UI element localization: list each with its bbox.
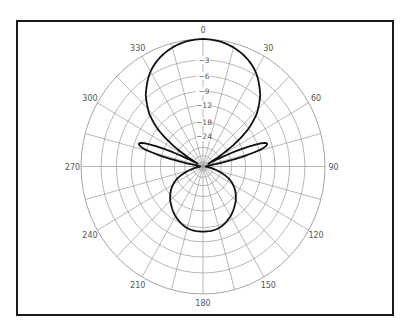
angle-label: 300 <box>82 94 97 103</box>
angle-label: 180 <box>195 299 210 308</box>
angle-label: 210 <box>130 281 145 290</box>
angle-label: 120 <box>308 231 323 240</box>
radial-label: −6 <box>198 72 209 81</box>
radial-label: −18 <box>196 118 212 127</box>
angle-label: 330 <box>130 44 145 53</box>
angle-label: 60 <box>311 94 321 103</box>
radial-label: −9 <box>198 87 209 96</box>
radial-label: −24 <box>196 132 212 141</box>
radial-tick-labels: −3−6−9−12−18−24 <box>196 56 212 141</box>
angle-label: 270 <box>65 163 80 172</box>
radial-label: −3 <box>198 56 209 65</box>
radial-label: −12 <box>196 101 212 110</box>
polar-chart: 0306090120150180210240270300330 −3−6−9−1… <box>0 0 407 331</box>
angle-label: 240 <box>82 231 97 240</box>
angle-label: 0 <box>200 26 205 35</box>
angle-label: 90 <box>328 163 338 172</box>
angle-label: 30 <box>263 44 273 53</box>
angle-label: 150 <box>261 281 276 290</box>
